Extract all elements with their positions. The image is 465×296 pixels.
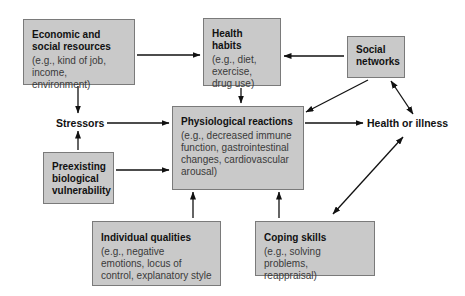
node-description: (e.g., decreased immune bbox=[181, 130, 295, 142]
node-title: Health habits bbox=[212, 28, 272, 52]
node-title: vulnerability bbox=[52, 185, 105, 197]
node-description: changes, cardiovascular bbox=[181, 154, 295, 166]
node-description: emotions, locus of bbox=[101, 258, 212, 270]
edge-coping-health-or-illness bbox=[333, 137, 403, 214]
edge-social-health-or-illness bbox=[391, 81, 413, 114]
node-health-habits: Health habits (e.g., diet, exercise, dru… bbox=[203, 18, 281, 86]
node-description: arousal) bbox=[181, 166, 295, 178]
node-social-networks: Social networks bbox=[347, 36, 405, 78]
node-title: Social bbox=[356, 44, 396, 56]
node-description: (e.g., diet, bbox=[212, 54, 272, 66]
node-description: function, gastrointestinal bbox=[181, 142, 295, 154]
node-title: Individual qualities bbox=[101, 232, 212, 244]
node-description: exercise, bbox=[212, 66, 272, 78]
node-description: (e.g., kind of job, bbox=[32, 55, 126, 67]
node-coping-skills: Coping skills (e.g., solving problems, r… bbox=[255, 221, 375, 276]
node-title: Economic and bbox=[32, 29, 126, 41]
node-stressors: Stressors bbox=[56, 117, 104, 129]
node-title: Preexisting bbox=[52, 161, 105, 173]
node-economic-social-resources: Economic and social resources (e.g., kin… bbox=[23, 19, 135, 85]
node-description: income, environment) bbox=[32, 67, 126, 91]
node-title: Coping skills bbox=[264, 232, 366, 244]
node-description: drug use) bbox=[212, 78, 272, 90]
node-description: control, explanatory style bbox=[101, 270, 212, 282]
node-description: reappraisal) bbox=[264, 270, 366, 282]
node-description: (e.g., solving problems, bbox=[264, 246, 366, 270]
node-preexisting-vulnerability: Preexisting biological vulnerability bbox=[43, 152, 114, 204]
node-title: Physiological reactions bbox=[181, 116, 295, 128]
node-title: social resources bbox=[32, 41, 126, 53]
node-individual-qualities: Individual qualities (e.g., negative emo… bbox=[92, 221, 221, 286]
node-physiological-reactions: Physiological reactions (e.g., decreased… bbox=[172, 106, 304, 190]
node-title: networks bbox=[356, 56, 396, 68]
node-description: (e.g., negative bbox=[101, 246, 212, 258]
node-health-or-illness: Health or illness bbox=[367, 117, 448, 129]
node-title: biological bbox=[52, 173, 105, 185]
edge-social-to-physiological bbox=[306, 80, 368, 112]
